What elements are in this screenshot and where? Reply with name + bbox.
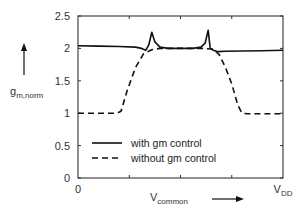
y-tick-label: 1 <box>64 107 70 119</box>
legend: with gm control without gm control <box>92 137 216 164</box>
y-tick-label: 2 <box>64 42 70 54</box>
y-tick-label: 0.5 <box>55 140 70 152</box>
y-tick-label: 2.5 <box>55 10 70 22</box>
y-axis-label-group: gm,norm <box>10 43 44 100</box>
series-line-without-gm-control <box>78 48 283 113</box>
y-axis-label: gm,norm <box>10 85 44 100</box>
legend-label-without-gm: without gm control <box>130 152 216 164</box>
x-axis-label-group: Vcommon <box>150 191 244 206</box>
chart: 00.511.522.50VDD with gm control without… <box>0 0 302 212</box>
y-tick-label: 1.5 <box>55 75 70 87</box>
y-tick-label: 0 <box>64 172 70 184</box>
y-axis-arrow-icon <box>21 43 27 51</box>
x-tick-label: 0 <box>75 183 81 195</box>
x-axis-label: Vcommon <box>150 191 188 206</box>
legend-label-with-gm: with gm control <box>130 137 202 149</box>
x-axis-arrow-icon <box>236 196 244 202</box>
x-tick-label: VDD <box>274 183 293 198</box>
